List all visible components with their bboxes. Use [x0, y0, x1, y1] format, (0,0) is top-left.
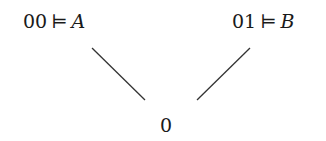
node-root: 0 [160, 116, 172, 135]
edge-root-left [92, 48, 145, 100]
models-symbol: ⊨ [260, 10, 276, 32]
node-left-formula: A [72, 10, 86, 32]
node-right-formula: B [281, 10, 295, 32]
node-right-label: 01 [232, 10, 256, 32]
node-left-label: 00 [23, 10, 47, 32]
tree-diagram: 00⊨A 01⊨B 0 [0, 0, 326, 141]
node-right: 01⊨B [232, 12, 295, 31]
edge-root-right [197, 48, 250, 100]
models-symbol: ⊨ [51, 10, 67, 32]
node-root-label: 0 [160, 114, 172, 136]
node-left: 00⊨A [23, 12, 85, 31]
